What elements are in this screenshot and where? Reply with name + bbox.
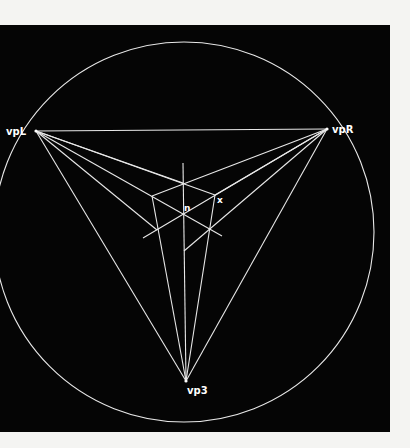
diagram-panel: vpL vpR vp3 n x [0, 25, 390, 432]
line-vpR-right [215, 129, 327, 195]
label-x: x [217, 195, 223, 205]
line-vpR-ri [184, 129, 327, 251]
perspective-diagram: vpL vpR vp3 n x [0, 25, 390, 432]
label-n: n [184, 203, 190, 213]
line-vpR-vp3 [186, 129, 327, 381]
label-vpL: vpL [6, 126, 27, 137]
label-vp3: vp3 [187, 385, 208, 396]
horizon-line [36, 129, 327, 131]
cone-of-vision-circle [0, 42, 374, 422]
line-vpL-ri [36, 131, 222, 236]
line-vpR-top [152, 129, 327, 196]
label-vpR: vpR [332, 124, 354, 135]
line-vpL-li [36, 131, 157, 230]
line-center-vp3 [183, 163, 186, 381]
line-right-vp3 [186, 195, 215, 381]
line-vpL-top [36, 131, 183, 183]
